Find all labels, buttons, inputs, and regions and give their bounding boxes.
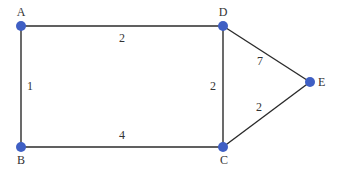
edge-weight-d-e: 7	[257, 54, 263, 68]
edge-c-e	[223, 82, 310, 147]
edge-weight-a-d: 2	[119, 31, 125, 45]
edge-weight-c-e: 2	[256, 100, 262, 114]
node-label-d: D	[219, 5, 228, 19]
node-c	[218, 142, 228, 152]
nodes-layer	[16, 21, 315, 152]
node-label-c: C	[220, 153, 228, 167]
node-label-b: B	[17, 153, 25, 167]
node-a	[16, 21, 26, 31]
node-label-e: E	[318, 75, 325, 89]
weights-layer: 2 1 2 7 2 4	[27, 31, 263, 142]
node-d	[218, 21, 228, 31]
node-b	[16, 142, 26, 152]
node-labels-layer: A B C D E	[17, 5, 326, 167]
edges-layer	[21, 26, 310, 147]
edge-weight-b-c: 4	[119, 128, 125, 142]
edge-d-e	[223, 26, 310, 82]
edge-weight-d-c: 2	[210, 79, 216, 93]
node-e	[305, 77, 315, 87]
edge-weight-a-b: 1	[27, 79, 33, 93]
weighted-graph: 2 1 2 7 2 4 A B C D E	[0, 0, 341, 172]
node-label-a: A	[17, 5, 26, 19]
